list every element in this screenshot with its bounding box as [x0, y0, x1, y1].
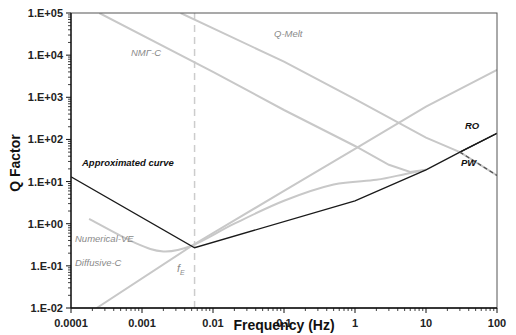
label-qmelt: Q-Melt	[274, 28, 303, 39]
y-axis-title: Q Factor	[7, 134, 23, 192]
series-diffusive-c	[97, 70, 497, 308]
label-fe: fE	[177, 262, 185, 276]
y-tick-label: 1.E+02	[28, 133, 63, 145]
label-ro: RO	[465, 120, 480, 131]
y-tick-label: 1.E+05	[28, 7, 63, 19]
x-tick-label: 0.0001	[54, 317, 88, 329]
label-pw: PW	[461, 157, 477, 168]
series-numerical-ve	[89, 170, 426, 252]
y-tick-label: 1.E+00	[28, 218, 63, 230]
label-diffusive-c: Diffusive-C	[75, 257, 122, 268]
axes: 0.00010.0010.010.11101001.E-021.E-011.E+…	[28, 7, 506, 329]
series-ro	[460, 133, 497, 152]
y-tick-label: 1.E-02	[31, 302, 63, 314]
x-tick-label: 10	[420, 317, 432, 329]
label-numerical-ve: Numerical-VE	[75, 233, 134, 244]
y-tick-label: 1.E+01	[28, 176, 63, 188]
y-tick-label: 1.E+04	[28, 49, 64, 61]
label-approximated-curve: Approximated curve	[81, 157, 175, 168]
q-factor-chart: 0.00010.0010.010.11101001.E-021.E-011.E+…	[0, 0, 516, 335]
y-tick-label: 1.E-01	[31, 260, 63, 272]
x-axis-title: Frequency (Hz)	[233, 317, 334, 333]
series-nm-c	[99, 13, 426, 172]
x-tick-label: 1	[352, 317, 358, 329]
x-tick-label: 100	[488, 317, 506, 329]
label-nmgc: NMΓ-C	[131, 47, 161, 58]
y-tick-label: 1.E+03	[28, 91, 63, 103]
x-tick-label: 0.001	[128, 317, 156, 329]
x-tick-label: 0.01	[202, 317, 223, 329]
